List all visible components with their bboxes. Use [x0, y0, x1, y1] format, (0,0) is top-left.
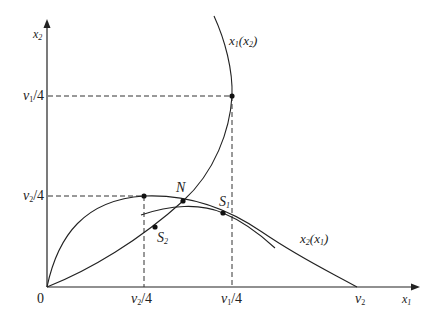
x-tick-v2-4: v2/4 [131, 292, 152, 307]
point-s2 [152, 224, 157, 229]
point-peak-x1 [229, 93, 234, 98]
point-peak-x2 [141, 193, 146, 198]
point-label-s2: S2 [157, 231, 168, 246]
point-s1 [220, 210, 225, 215]
point-n [180, 198, 185, 203]
y-axis-label: x2 [33, 28, 42, 42]
x-tick-v2: v2 [355, 292, 365, 307]
y-tick-v1-4: v1/4 [23, 89, 44, 104]
y-tick-v2-4: v2/4 [23, 189, 44, 204]
curve-label-x1-of-x2: x1(x2) [229, 34, 257, 49]
point-label-n: N [176, 181, 185, 195]
diagram-canvas [0, 0, 439, 320]
x-tick-v1-4: v1/4 [221, 292, 242, 307]
x-axis-arrow-icon [411, 284, 420, 291]
x-axis-label: x1 [402, 293, 411, 307]
curve-label-x2-of-x1: x2(x1) [300, 232, 328, 247]
point-label-s1: S1 [219, 195, 230, 210]
curve-x1-of-x2 [47, 16, 232, 287]
origin-label: 0 [37, 292, 44, 306]
y-axis-arrow-icon [44, 19, 51, 28]
